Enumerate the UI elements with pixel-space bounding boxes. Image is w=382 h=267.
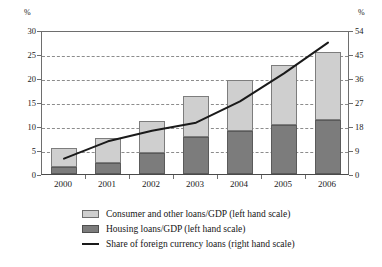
legend-label: Housing loans/GDP (left hand scale) <box>106 224 245 234</box>
legend-item: Housing loans/GDP (left hand scale) <box>82 221 372 236</box>
x-axis-label-2003: 2003 <box>175 180 215 189</box>
right-tick-label: 36 <box>355 75 364 84</box>
left-tick-label: 30 <box>28 27 37 36</box>
plot-area <box>41 31 349 175</box>
left-tick-label: 10 <box>28 123 37 132</box>
x-axis-label-2002: 2002 <box>131 180 171 189</box>
right-tick-label: 0 <box>355 171 359 180</box>
line-series <box>42 32 350 176</box>
legend-label: Share of foreign currency loans (right h… <box>106 239 295 249</box>
left-tick-label: 20 <box>28 75 37 84</box>
legend-label: Consumer and other loans/GDP (left hand … <box>106 209 290 219</box>
foreign-currency-line-path <box>64 43 328 159</box>
x-tick-mark <box>305 175 306 179</box>
legend-item: Consumer and other loans/GDP (left hand … <box>82 206 372 221</box>
legend-swatch-foreign-currency-line <box>82 243 99 245</box>
left-tick-label: 15 <box>28 99 37 108</box>
legend-item: Share of foreign currency loans (right h… <box>82 236 372 251</box>
chart-legend: Consumer and other loans/GDP (left hand … <box>82 206 372 251</box>
x-tick-mark <box>129 175 130 179</box>
right-tick-label: 54 <box>355 27 364 36</box>
legend-swatch-housing-loans <box>82 225 99 233</box>
left-tick-label: 0 <box>32 171 36 180</box>
x-tick-mark <box>261 175 262 179</box>
left-axis-unit-label: % <box>24 9 31 17</box>
x-axis-label-2006: 2006 <box>307 180 347 189</box>
x-axis-label-2005: 2005 <box>263 180 303 189</box>
x-tick-mark <box>85 175 86 179</box>
left-tick-label: 5 <box>32 147 36 156</box>
right-tick-label: 45 <box>355 51 364 60</box>
right-tick-label: 9 <box>355 147 359 156</box>
x-axis-label-2001: 2001 <box>87 180 127 189</box>
left-tick-mark <box>37 175 41 176</box>
x-axis-label-2004: 2004 <box>219 180 259 189</box>
x-tick-mark <box>217 175 218 179</box>
right-axis-unit-label: % <box>358 9 365 17</box>
x-axis-label-2000: 2000 <box>43 180 83 189</box>
legend-swatch-consumer-loans <box>82 210 99 218</box>
right-tick-label: 27 <box>355 99 364 108</box>
left-tick-label: 25 <box>28 51 37 60</box>
right-tick-label: 18 <box>355 123 364 132</box>
x-tick-mark <box>173 175 174 179</box>
chart-figure: % % 051015202530 091827364554 2000200120… <box>0 0 382 267</box>
